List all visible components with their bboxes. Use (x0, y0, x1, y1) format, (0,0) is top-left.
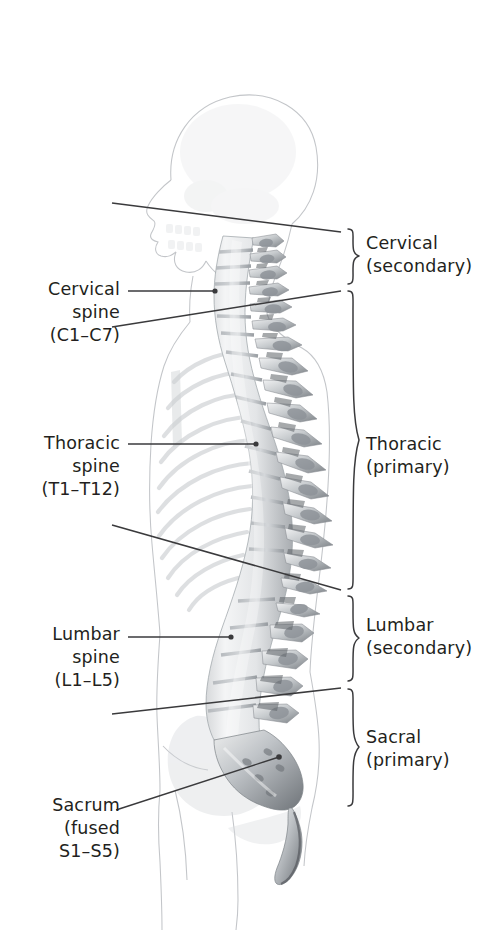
spine-anatomy-figure: Cervical spine (C1–C7) Thoracic spine (T… (0, 0, 493, 930)
leader-dot-cervical-spine (212, 288, 217, 293)
label-lumbar-spine: Lumbar spine (L1–L5) (52, 623, 120, 691)
brace-lumbar-curve (348, 596, 359, 681)
label-thoracic-curvature: Thoracic (primary) (366, 433, 450, 479)
leader-dot-lumbar-spine (228, 634, 233, 639)
label-lumbar-curvature: Lumbar (secondary) (366, 614, 472, 660)
brace-sacral-curve (348, 689, 359, 806)
brace-thoracic-curve (348, 291, 359, 589)
label-sacral-curvature: Sacral (primary) (366, 726, 450, 772)
label-cervical-curvature: Cervical (secondary) (366, 232, 472, 278)
label-cervical-spine: Cervical spine (C1–C7) (48, 278, 120, 346)
ghost-sternum (171, 370, 182, 447)
region-braces (348, 229, 359, 806)
leader-dot-sacrum (276, 754, 282, 760)
brace-cervical-curve (348, 229, 359, 284)
label-thoracic-spine: Thoracic spine (T1–T12) (41, 432, 120, 500)
label-sacrum: Sacrum (fused S1–S5) (52, 794, 120, 862)
leader-dot-thoracic-spine (253, 441, 258, 446)
